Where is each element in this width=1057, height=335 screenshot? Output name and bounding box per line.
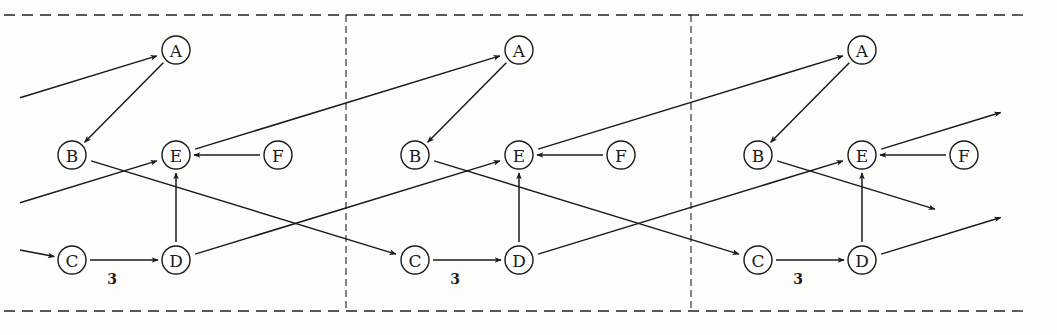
node-f-panel-3: F <box>950 141 978 169</box>
edge-stub-d-panel-3 <box>881 218 1001 255</box>
node-label: D <box>855 251 869 271</box>
node-label: F <box>272 146 284 166</box>
node-label: A <box>512 41 526 61</box>
edge-d-to-next-e-panel-1 <box>195 161 500 254</box>
node-a-panel-1: A <box>162 36 190 64</box>
node-f-panel-1: F <box>264 141 292 169</box>
edge-incoming-c-panel-1 <box>20 250 54 257</box>
node-d-panel-2: D <box>505 246 533 274</box>
node-e-panel-2: E <box>505 141 533 169</box>
node-c-panel-1: C <box>58 246 86 274</box>
node-d-panel-3: D <box>848 246 876 274</box>
node-label: F <box>615 146 627 166</box>
node-label: A <box>169 41 183 61</box>
node-b-panel-1: B <box>58 141 86 169</box>
node-d-panel-1: D <box>162 246 190 274</box>
edge-stub-e-panel-3 <box>881 113 1001 150</box>
edge-b-to-next-c-panel-1 <box>91 161 396 254</box>
node-b-panel-2: B <box>401 141 429 169</box>
node-c-panel-3: C <box>744 246 772 274</box>
node-label: A <box>855 41 869 61</box>
edge-weight-label: 3 <box>793 271 803 287</box>
node-b-panel-3: B <box>744 141 772 169</box>
node-c-panel-2: C <box>401 246 429 274</box>
node-label: E <box>513 146 525 166</box>
node-f-panel-2: F <box>607 141 635 169</box>
node-label: B <box>752 146 765 166</box>
node-label: E <box>170 146 182 166</box>
edge-e-to-next-a-panel-2 <box>538 56 843 149</box>
node-e-panel-3: E <box>848 141 876 169</box>
node-label: C <box>65 251 78 271</box>
node-a-panel-2: A <box>505 36 533 64</box>
node-label: B <box>66 146 79 166</box>
node-label: E <box>856 146 868 166</box>
edge-weight-label: 3 <box>107 271 117 287</box>
edge-incoming-a-panel-1 <box>20 56 157 98</box>
node-label: F <box>958 146 970 166</box>
edge-weight-label: 3 <box>450 271 460 287</box>
node-a-panel-3: A <box>848 36 876 64</box>
node-label: D <box>169 251 183 271</box>
schedule-diagram: 333 ABEFCDABEFCDABEFCD <box>0 0 1057 335</box>
diagram-canvas: 333 ABEFCDABEFCDABEFCD <box>0 0 1057 335</box>
edge-incoming-e-panel-1 <box>20 161 157 203</box>
edge-b-to-next-c-panel-2 <box>434 161 739 254</box>
node-label: B <box>409 146 422 166</box>
node-label: C <box>751 251 764 271</box>
node-label: C <box>408 251 421 271</box>
edge-e-to-next-a-panel-1 <box>195 56 500 149</box>
node-e-panel-1: E <box>162 141 190 169</box>
node-label: D <box>512 251 526 271</box>
